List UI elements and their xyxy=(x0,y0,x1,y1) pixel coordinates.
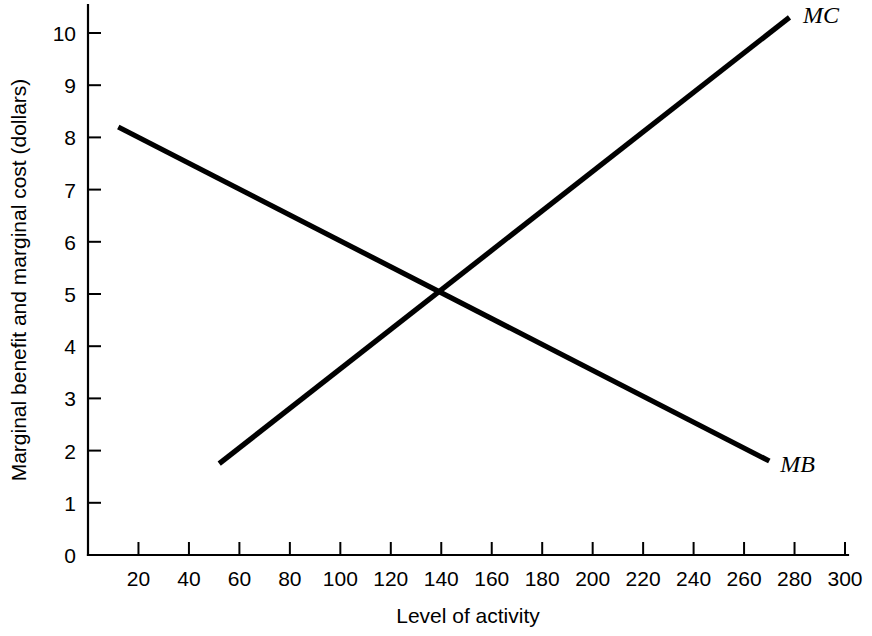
x-tick-label: 280 xyxy=(777,567,812,590)
axis-lines xyxy=(88,5,848,555)
y-tick-label: 3 xyxy=(64,387,76,410)
y-tick-label: 10 xyxy=(53,22,76,45)
series-label-mb: MB xyxy=(779,451,815,477)
x-tick-label: 140 xyxy=(424,567,459,590)
y-tick-label: 0 xyxy=(64,544,76,567)
x-tick-label: 20 xyxy=(127,567,150,590)
y-tick-label: 9 xyxy=(64,74,76,97)
x-tick-label: 100 xyxy=(323,567,358,590)
y-tick-label: 1 xyxy=(64,492,76,515)
chart-figure: 012345678910 204060801001201401601802002… xyxy=(0,0,872,636)
x-tick-label: 300 xyxy=(827,567,862,590)
x-tick-label: 120 xyxy=(373,567,408,590)
x-axis-title: Level of activity xyxy=(396,604,540,627)
y-tick-label: 5 xyxy=(64,283,76,306)
x-tick-label: 220 xyxy=(626,567,661,590)
x-tick-label: 60 xyxy=(228,567,251,590)
series-label-mc: MC xyxy=(802,2,840,28)
y-axis-title: Marginal benefit and marginal cost (doll… xyxy=(7,79,30,482)
y-tick-label: 8 xyxy=(64,126,76,149)
y-tick-label: 7 xyxy=(64,179,76,202)
series-line-mc xyxy=(219,17,789,463)
chart-series-group xyxy=(118,17,789,463)
y-tick-label: 4 xyxy=(64,335,76,358)
x-tick-label: 240 xyxy=(676,567,711,590)
y-axis-ticks: 012345678910 xyxy=(53,22,101,567)
marginal-benefit-cost-chart: 012345678910 204060801001201401601802002… xyxy=(0,0,872,636)
x-tick-label: 200 xyxy=(575,567,610,590)
y-tick-label: 2 xyxy=(64,440,76,463)
x-tick-label: 180 xyxy=(525,567,560,590)
y-tick-label: 6 xyxy=(64,231,76,254)
x-tick-label: 40 xyxy=(177,567,200,590)
series-labels-group: MBMC xyxy=(779,2,840,477)
x-tick-label: 160 xyxy=(474,567,509,590)
x-tick-label: 80 xyxy=(278,567,301,590)
series-line-mb xyxy=(118,127,769,461)
x-axis-ticks: 2040608010012014016018020022024026028030… xyxy=(127,542,863,590)
x-tick-label: 260 xyxy=(727,567,762,590)
